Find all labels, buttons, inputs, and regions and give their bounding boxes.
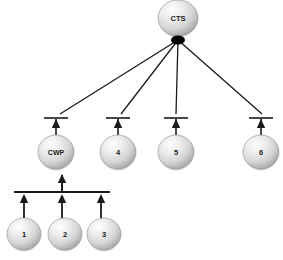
node-circle-n3 [87, 218, 121, 250]
junction-layer [171, 36, 185, 45]
edge-cts-6 [178, 40, 262, 114]
node-circle-n5 [158, 135, 194, 169]
node-circle-n4 [100, 135, 136, 169]
node-n3[interactable]: 3 [87, 218, 121, 252]
junction-node [171, 36, 185, 45]
node-n2[interactable]: 2 [48, 218, 82, 252]
node-n1[interactable]: 1 [7, 218, 41, 252]
node-circle-n2 [48, 218, 82, 250]
node-layer: CTSCWP456123 [7, 0, 279, 252]
arrowhead-6 [257, 119, 265, 128]
arrowhead-1 [20, 194, 28, 203]
arrowhead-2 [58, 194, 66, 203]
node-circle-n1 [7, 218, 41, 250]
edge-cts-5 [176, 40, 178, 114]
node-circle-n6 [243, 135, 279, 169]
node-circle-cts [158, 0, 198, 36]
edge-layer [60, 40, 262, 114]
node-cts[interactable]: CTS [158, 0, 198, 38]
arrowhead-cwp-lower [58, 174, 66, 183]
node-cwp[interactable]: CWP [38, 135, 74, 171]
edge-cts-4 [121, 40, 178, 114]
arrowhead-5 [172, 119, 180, 128]
tree-diagram: CTSCWP456123 [0, 0, 283, 260]
arrowhead-4 [114, 119, 122, 128]
node-n6[interactable]: 6 [243, 135, 279, 171]
edge-cts-cwp [60, 40, 178, 114]
node-n5[interactable]: 5 [158, 135, 194, 171]
node-n4[interactable]: 4 [100, 135, 136, 171]
node-circle-cwp [38, 135, 74, 169]
diagram-canvas: CTSCWP456123 [0, 0, 283, 260]
arrowhead-cwp [52, 119, 60, 128]
arrowhead-3 [97, 194, 105, 203]
